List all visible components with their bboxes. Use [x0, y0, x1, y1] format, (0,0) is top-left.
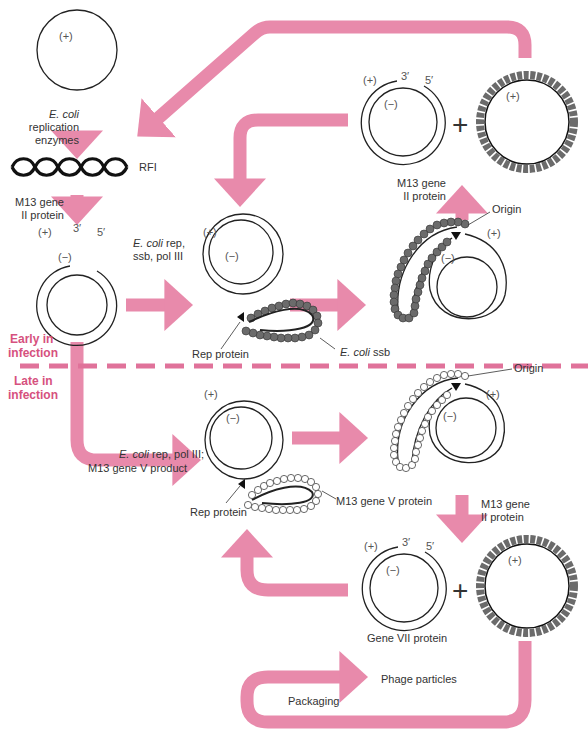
three-prime-label: 3′	[402, 536, 410, 548]
label-ecoli-rep: E. coli rep,	[133, 237, 185, 249]
label-rep-protein-late: Rep protein	[190, 506, 247, 518]
arrow-late-return	[247, 542, 348, 590]
label-origin-early: Origin	[492, 203, 521, 215]
label-early-2: infection	[8, 346, 58, 360]
label-ssb-pol3: ssb, pol III	[133, 250, 183, 262]
label-packaging: Packaging	[288, 695, 339, 707]
label-m13-gene-1: M13 gene	[15, 196, 64, 208]
svg-text:(+): (+)	[508, 554, 522, 566]
label-ii-protein-1: II protein	[21, 209, 64, 221]
rolling-circle-late	[205, 401, 322, 514]
sign-plus: (+)	[38, 226, 52, 238]
gene-v-beads	[244, 474, 321, 513]
sign-minus: (−)	[226, 412, 240, 424]
label-ii-protein-3: II protein	[481, 511, 524, 523]
arrow-early-return	[240, 120, 348, 194]
rolling-circle-early	[203, 214, 322, 342]
three-prime-label: 3′	[73, 222, 81, 234]
label-late-2: infection	[8, 388, 58, 402]
label-rfi: RFI	[139, 161, 157, 173]
label-m13-gene-v-protein: M13 gene V protein	[336, 495, 432, 507]
label-early-1: Early in	[10, 332, 53, 346]
label-m13-gene-2: M13 gene	[397, 177, 446, 189]
three-prime-label: 3′	[401, 70, 409, 82]
sign-minus: (−)	[386, 564, 400, 576]
five-prime-label: 5′	[426, 540, 434, 552]
label-m13-gene-3: M13 gene	[481, 498, 530, 510]
label-replication: replication	[29, 121, 79, 133]
label-origin-late: Origin	[514, 362, 543, 374]
big-plus-late: +	[452, 575, 468, 606]
sign-plus: (+)	[486, 388, 500, 400]
rfi-supercoil	[12, 159, 127, 176]
label-rep-protein-early: Rep protein	[192, 348, 249, 360]
svg-text:(+): (+)	[59, 30, 73, 42]
sign-plus: (+)	[204, 388, 218, 400]
nicked-rf-product-early	[361, 81, 445, 165]
sign-minus: (−)	[384, 98, 398, 110]
m13-replication-diagram: (+) E. coli replication enzymes RFI M13 …	[0, 0, 588, 737]
arrow-late-entry	[77, 342, 188, 460]
five-prime-label: 5′	[97, 226, 105, 238]
ssb-coated-plus-strand-late: (+)	[480, 539, 574, 633]
ssb-coated-plus-strand-early: (+)	[480, 75, 574, 169]
sign-plus: (+)	[203, 226, 217, 238]
sign-plus: (+)	[363, 74, 377, 86]
big-plus-early: +	[452, 109, 468, 140]
ss-plus-strand-circle: (+)	[37, 10, 117, 90]
label-ecoli: E. coli	[49, 108, 80, 120]
label-late-1: Late in	[14, 374, 53, 388]
label-ii-protein-2: II protein	[403, 190, 446, 202]
five-prime-label: 5′	[425, 74, 433, 86]
sign-minus: (−)	[225, 250, 239, 262]
label-enzymes: enzymes	[35, 134, 80, 146]
label-gene-vii-protein: Gene VII protein	[367, 632, 447, 644]
label-ecoli-ssb: E. coli ssb	[340, 346, 390, 358]
svg-text:(+): (+)	[506, 90, 520, 102]
nicked-rf-product-late	[362, 547, 446, 631]
sign-plus: (+)	[364, 540, 378, 552]
sign-minus: (−)	[441, 252, 455, 264]
label-phage-particles: Phage particles	[381, 673, 457, 685]
sign-minus: (−)	[58, 251, 72, 263]
sign-minus: (−)	[443, 410, 457, 422]
sign-plus: (+)	[487, 227, 501, 239]
label-late-enzymes: E. coli rep, pol III;	[119, 448, 204, 460]
label-m13-gene-v-product: M13 gene V product	[88, 462, 187, 474]
